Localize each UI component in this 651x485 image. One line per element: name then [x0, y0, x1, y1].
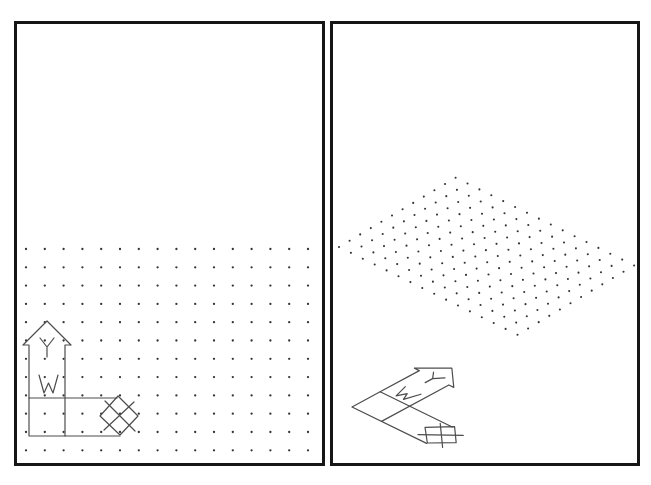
- grid-dot: [611, 265, 613, 267]
- grid-dot: [527, 327, 529, 329]
- grid-dot: [307, 284, 309, 286]
- grid-dot: [485, 249, 487, 251]
- grid-dot: [138, 358, 140, 360]
- grid-dot: [194, 413, 196, 415]
- grid-dot: [307, 358, 309, 360]
- grid-dot: [562, 229, 564, 231]
- grid-dot: [362, 258, 364, 260]
- grid-dot: [213, 376, 215, 378]
- grid-dot: [449, 232, 451, 234]
- grid-dot: [175, 303, 177, 305]
- grid-dot: [25, 431, 27, 433]
- grid-dot: [530, 248, 532, 250]
- grid-dot: [612, 277, 614, 279]
- grid-dot: [588, 265, 590, 267]
- grid-dot: [576, 259, 578, 261]
- grid-dot: [490, 194, 492, 196]
- grid-dot: [213, 321, 215, 323]
- grid-dot: [609, 253, 611, 255]
- grid-dot: [44, 266, 46, 268]
- grid-dot: [478, 292, 480, 294]
- grid-dot: [62, 303, 64, 305]
- grid-dot: [100, 339, 102, 341]
- grid-dot: [269, 284, 271, 286]
- grid-dot: [550, 223, 552, 225]
- grid-dot: [119, 449, 121, 451]
- grid-dot: [138, 284, 140, 286]
- grid-dot: [25, 248, 27, 250]
- grid-dot: [481, 213, 483, 215]
- grid-dot: [538, 218, 540, 220]
- grid-dot: [360, 246, 362, 248]
- grid-dot: [269, 431, 271, 433]
- grid-dot: [194, 449, 196, 451]
- grid-dot: [531, 260, 533, 262]
- grid-dot: [575, 247, 577, 249]
- grid-dot: [484, 237, 486, 239]
- grid-dot: [433, 189, 435, 191]
- grid-dot: [138, 339, 140, 341]
- grid-dot: [232, 303, 234, 305]
- grid-dot: [503, 316, 505, 318]
- grid-dot: [444, 286, 446, 288]
- grid-dot: [487, 273, 489, 275]
- grid-dot: [269, 394, 271, 396]
- grid-dot: [288, 248, 290, 250]
- grid-dot: [119, 431, 121, 433]
- grid-dot: [556, 284, 558, 286]
- grid-dot: [503, 212, 505, 214]
- grid-dot: [213, 431, 215, 433]
- grid-dot: [119, 394, 121, 396]
- grid-dot: [477, 280, 479, 282]
- grid-dot: [384, 257, 386, 259]
- grid-dot: [232, 394, 234, 396]
- grid-dot: [250, 431, 252, 433]
- grid-dot: [416, 238, 418, 240]
- grid-dot: [307, 303, 309, 305]
- grid-dot: [44, 339, 46, 341]
- grid-dot: [539, 230, 541, 232]
- grid-dot: [307, 321, 309, 323]
- grid-dot: [194, 431, 196, 433]
- grid-dot: [156, 376, 158, 378]
- grid-dot: [338, 246, 340, 248]
- grid-dot: [232, 358, 234, 360]
- grid-dot: [250, 266, 252, 268]
- grid-dot: [81, 431, 83, 433]
- grid-dot: [250, 284, 252, 286]
- grid-dot: [100, 394, 102, 396]
- grid-dot: [374, 264, 376, 266]
- grid-dot: [589, 277, 591, 279]
- grid-dot: [579, 284, 581, 286]
- grid-dot: [554, 260, 556, 262]
- grid-dot: [542, 254, 544, 256]
- grid-dot: [469, 207, 471, 209]
- grid-dot: [156, 431, 158, 433]
- grid-dot: [577, 272, 579, 274]
- grid-dot: [44, 431, 46, 433]
- grid-dot: [44, 413, 46, 415]
- grid-dot: [454, 280, 456, 282]
- grid-dot: [175, 339, 177, 341]
- grid-dot: [213, 303, 215, 305]
- grid-dot: [25, 394, 27, 396]
- grid-dot: [288, 449, 290, 451]
- grid-dot: [175, 376, 177, 378]
- grid-dot: [440, 250, 442, 252]
- grid-dot: [621, 259, 623, 261]
- grid-dot: [194, 376, 196, 378]
- grid-dot: [288, 358, 290, 360]
- grid-dot: [448, 219, 450, 221]
- grid-dot: [175, 266, 177, 268]
- grid-dot: [44, 358, 46, 360]
- grid-dot: [435, 201, 437, 203]
- grid-dot: [62, 266, 64, 268]
- grid-dot: [119, 284, 121, 286]
- grid-dot: [213, 449, 215, 451]
- grid-dot: [175, 321, 177, 323]
- grid-dot: [156, 303, 158, 305]
- grid-dot: [564, 254, 566, 256]
- grid-dot: [547, 303, 549, 305]
- grid-dot: [566, 266, 568, 268]
- grid-dot: [100, 431, 102, 433]
